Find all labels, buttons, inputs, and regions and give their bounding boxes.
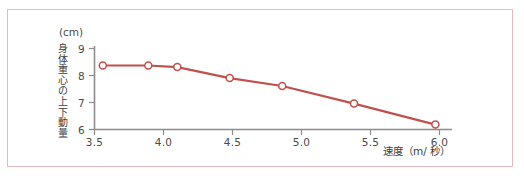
y-tick-label-7: 7 [71, 97, 85, 109]
data-point [279, 83, 286, 90]
y-tick-label-9: 9 [71, 43, 85, 55]
y-axis-ticks [89, 49, 95, 130]
y-axis-title: 身体重心の上下動量 [56, 44, 69, 139]
data-point [351, 100, 358, 107]
x-tick-label-5-0: 5.0 [285, 136, 319, 148]
x-tick-label-4-5: 4.5 [216, 136, 250, 148]
figure-root: (cm) 身体重心の上下動量 9 8 7 6 3.5 4.0 4.5 5.0 5… [0, 0, 524, 178]
data-point [174, 64, 181, 71]
x-tick-label-3-5: 3.5 [78, 136, 112, 148]
data-point [432, 121, 439, 128]
x-axis-title: 速度（m/ 秒） [383, 143, 450, 158]
chart-plot-area: (cm) 身体重心の上下動量 9 8 7 6 3.5 4.0 4.5 5.0 5… [0, 0, 524, 178]
y-tick-label-8: 8 [71, 70, 85, 82]
data-point [226, 75, 233, 82]
y-tick-label-6: 6 [71, 124, 85, 136]
data-series-line [103, 66, 436, 125]
data-point [99, 62, 106, 69]
data-point-markers [99, 62, 439, 128]
data-point [145, 62, 152, 69]
y-axis-unit-label: (cm) [59, 26, 83, 38]
x-tick-label-4-0: 4.0 [147, 136, 181, 148]
x-axis-ticks [95, 130, 440, 136]
